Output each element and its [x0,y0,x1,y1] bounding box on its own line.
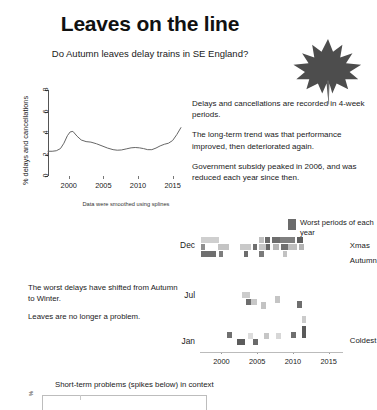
line-chart-x-tick-label: 2000 [61,181,77,190]
notes-block: Delays and cancellations are recorded in… [192,98,372,192]
heatmap-cell [302,316,306,324]
heatmap-cell [227,332,232,339]
bottom-section-caption: Short-term problems (spikes below) in co… [55,380,214,389]
heatmap-cell [244,251,248,258]
bottom-chart-y-label: % [28,391,34,396]
heatmap-cell [272,237,281,244]
legend-swatch-icon [288,219,296,230]
heatmap-plot-area: DecJulJan 2000200520102015 XmasAutumnCol… [200,238,343,352]
heatmap-cell [265,237,270,244]
line-chart-x-tick-label: 2010 [130,181,146,190]
heatmap-annotation: Autumn [350,256,377,265]
heatmap-x-tick-label: 2010 [285,357,301,366]
heatmap-cell [273,244,279,251]
line-chart-x-tickmark [173,176,174,179]
heatmap-cell [297,301,302,308]
heatmap-y-tick-label: Jan [181,336,195,346]
lower-text-item: Leaves are no longer a problem. [28,312,178,323]
heatmap-cell [218,244,229,251]
heatmap-cell [291,332,296,339]
heatmap-cell [251,299,257,306]
line-chart-y-axis-label: % delays and cancellations [21,86,30,196]
heatmap-axis-line [200,352,343,353]
line-chart-x-tick-label: 2005 [95,181,111,190]
lower-text-item: The worst delays have shifted from Autum… [28,283,178,304]
heatmap-cell [299,244,305,251]
heatmap-cell [201,251,216,258]
heatmap-cell [288,244,297,251]
note-item: Delays and cancellations are recorded in… [192,98,372,120]
line-chart-x-tickmark [69,176,70,179]
note-item: The long-term trend was that performance… [192,129,372,151]
heatmap-cell [266,244,270,251]
heatmap-cell [281,244,288,251]
heatmap-annotation: Coldest [350,336,376,345]
line-chart-caption: Data were smoothed using splines [56,201,196,207]
line-chart-series [48,90,183,176]
heatmap-cell [264,333,269,340]
heatmap-cell [297,237,303,244]
heatmap-cell [259,251,263,258]
page-title: Leaves on the line [0,12,300,36]
heatmap-cell [280,237,295,244]
heatmap-cell [219,251,223,258]
bottom-chart-tick [80,395,81,400]
heatmap-cell [283,251,287,258]
heatmap-cell [240,244,251,251]
heatmap-cell [201,244,205,251]
line-chart: % delays and cancellations 02468 2000200… [8,88,188,214]
heatmap-annotation: Xmas [350,241,370,250]
line-chart-x-tickmark [103,176,104,179]
heatmap-x-tick-label: 2000 [213,357,229,366]
heatmap-cell [201,237,218,244]
heatmap-cell [242,292,250,299]
bottom-chart-frame [42,395,207,410]
heatmap-cell [237,339,245,346]
heatmap-cell [261,302,266,309]
heatmap-cell [253,244,257,251]
heatmap-cell [302,326,306,339]
heatmap-y-tick-label: Jul [184,290,195,300]
heatmap-y-tick-label: Dec [180,240,195,250]
heatmap-legend: Worst periods of each year [288,218,377,237]
heatmap-x-tick-label: 2015 [320,357,336,366]
line-chart-x-tick-label: 2015 [164,181,180,190]
heatmap-cell [276,333,281,340]
note-item: Government subsidy peaked in 2006, and w… [192,161,372,183]
heatmap-cell [275,296,280,303]
lower-text-block: The worst delays have shifted from Autum… [28,283,178,331]
page-subtitle: Do Autumn leaves delay trains in SE Engl… [0,48,300,59]
line-chart-plot-area: 02468 2000200520102015 [48,90,183,176]
heatmap-x-tick-label: 2005 [249,357,265,366]
heatmap-chart: DecJulJan 2000200520102015 XmasAutumnCol… [184,238,374,360]
legend-label: Worst periods of each year [300,218,377,237]
line-chart-x-tickmark [138,176,139,179]
heatmap-cell [253,339,258,346]
bottom-chart-partial: % [28,394,208,408]
heatmap-cell [259,237,263,244]
